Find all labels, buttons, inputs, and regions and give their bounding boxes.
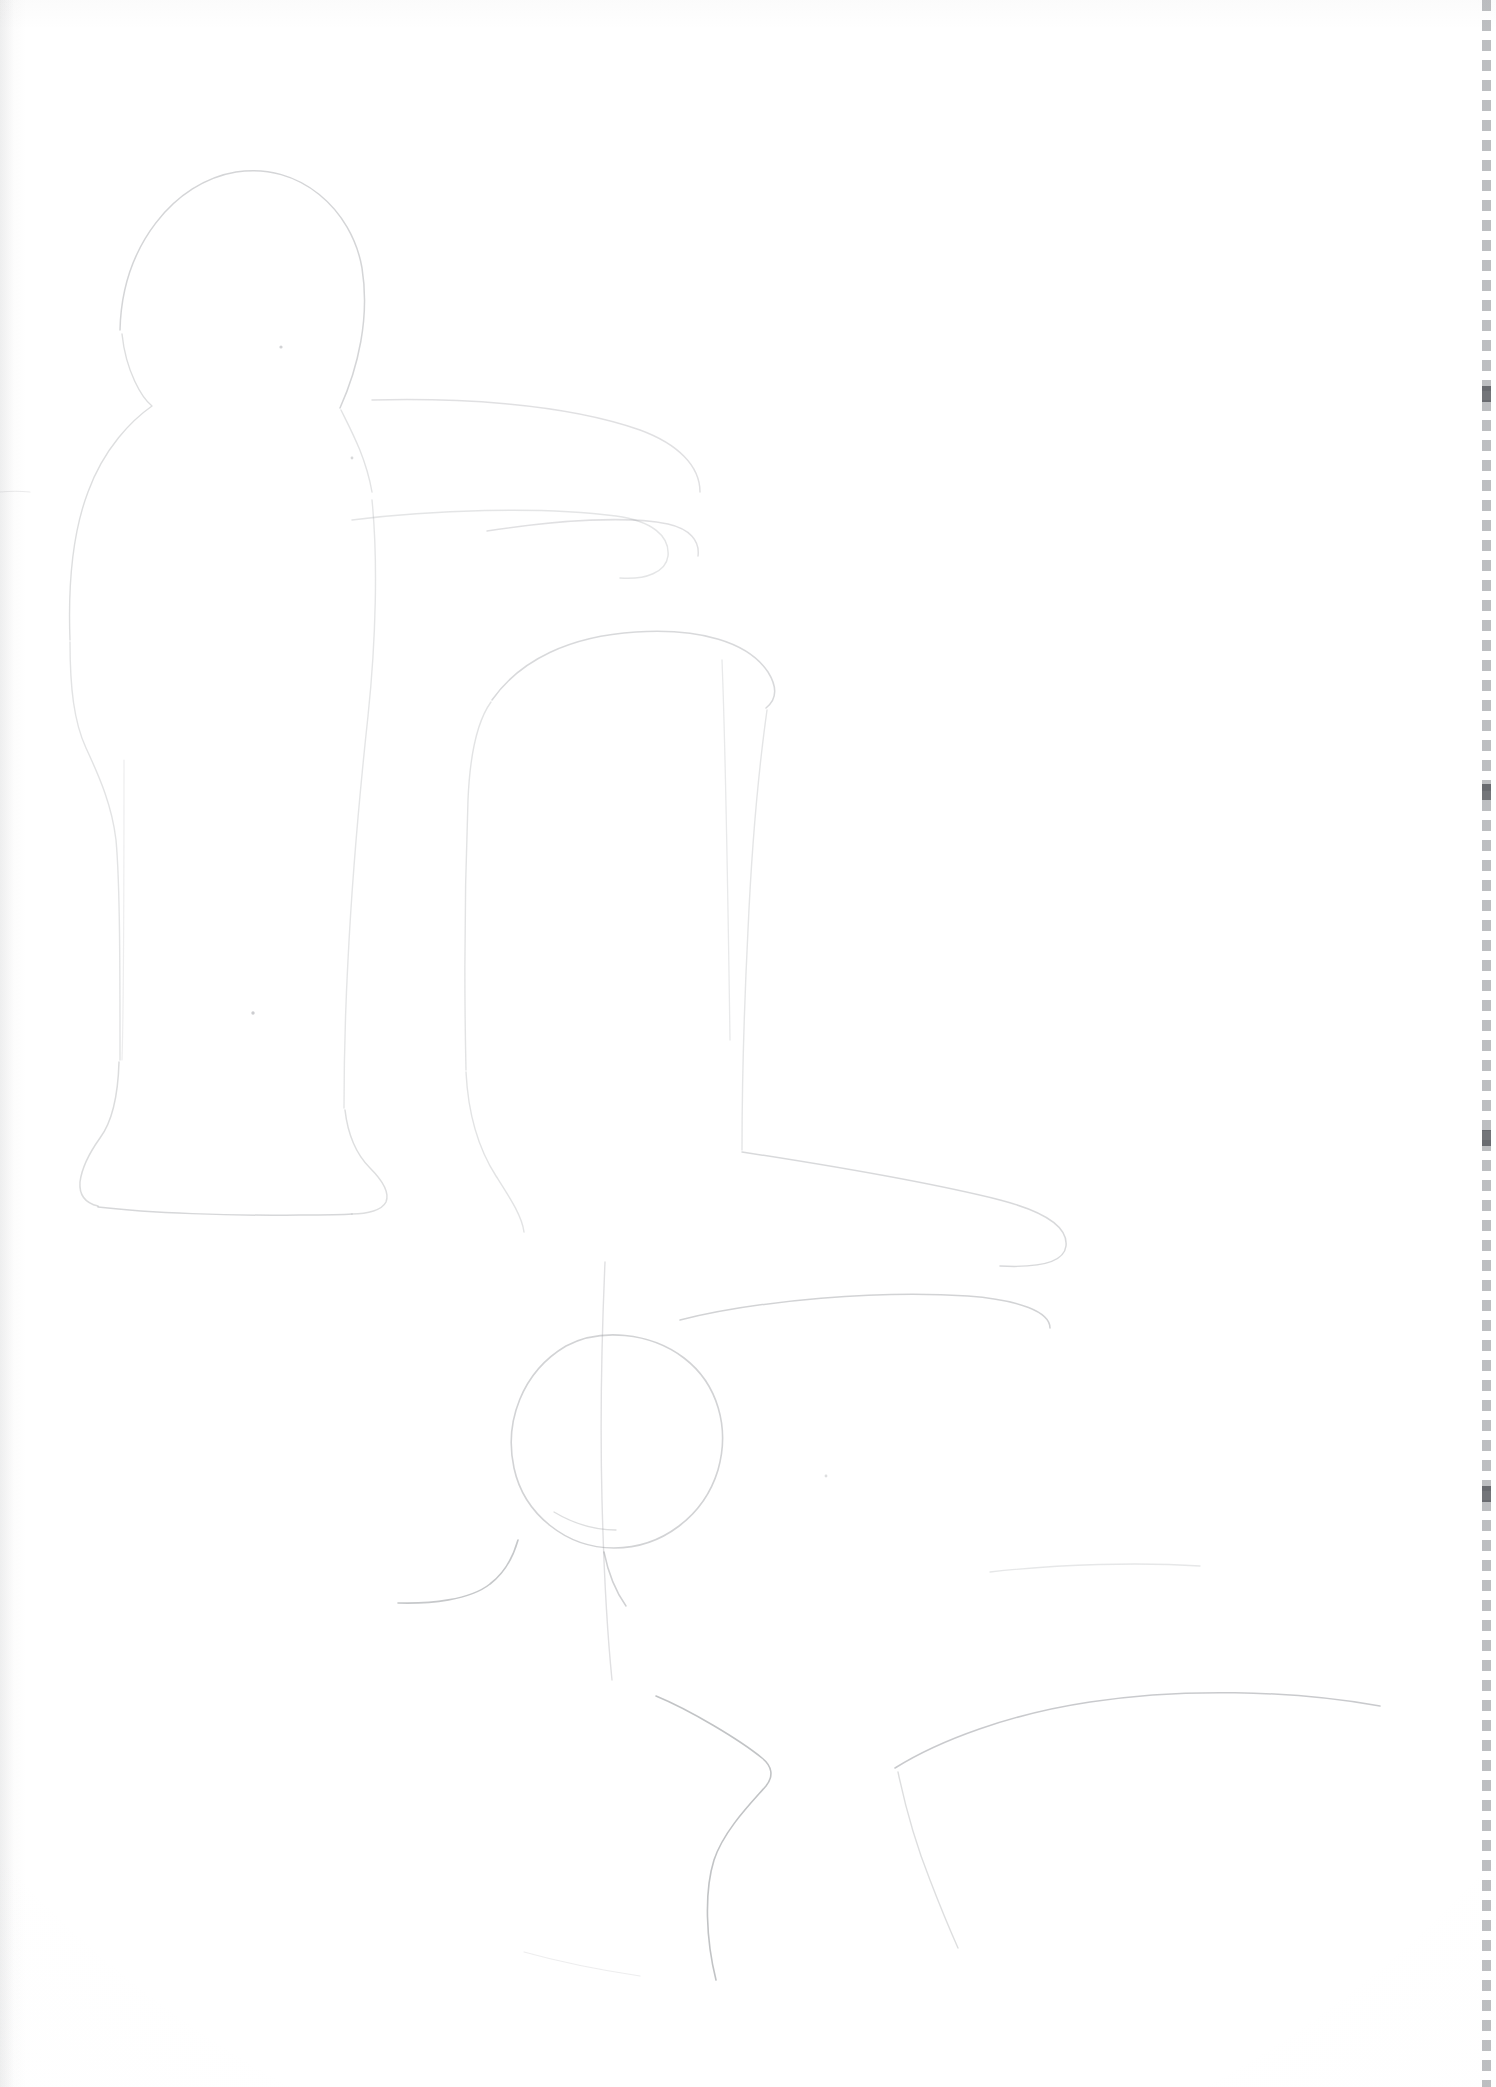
margin-tick-1 <box>1482 386 1491 402</box>
right-figure-hip-left <box>466 1072 524 1232</box>
bottom-right-curve-group <box>895 1564 1380 1948</box>
left-figure-base-right <box>345 1110 387 1214</box>
right-figure-lower-corner <box>398 1540 518 1603</box>
line-drawing-artwork <box>0 0 1496 2087</box>
bottom-circle-group <box>511 1335 722 1548</box>
margin-tick-3 <box>1482 1130 1491 1146</box>
bottom-right-long-curve <box>895 1693 1380 1768</box>
margin-tick-4 <box>1482 1486 1491 1502</box>
right-figure-leg-contour <box>601 1262 612 1680</box>
right-figure-lower-corner-stem <box>604 1552 626 1606</box>
left-figure-shoulder-left <box>70 334 152 640</box>
stray-dot-lower <box>825 1475 828 1478</box>
right-figure-inner-line <box>722 660 730 1040</box>
left-figure-base-bottom <box>98 1207 352 1215</box>
right-figure-torso-left <box>465 702 491 1070</box>
right-figure <box>352 400 1066 1980</box>
bottom-circle-inner-tick <box>554 1512 616 1530</box>
right-figure-base-sweep-lower <box>680 1294 1050 1328</box>
left-figure-base-left <box>80 1062 119 1206</box>
margin-tick-2 <box>1482 784 1491 800</box>
left-figure-body-left <box>70 642 120 1060</box>
stray-dot-upper <box>351 457 354 460</box>
bottom-right-upper-wisp <box>990 1564 1200 1572</box>
right-figure-base-sweep <box>742 1152 1066 1266</box>
left-figure-neck-right <box>341 410 372 492</box>
left-figure-head-outline <box>120 171 365 408</box>
bottom-circle-outline <box>511 1335 722 1548</box>
left-figure-inner-crease <box>122 760 124 1060</box>
right-figure-torso-top <box>492 631 775 708</box>
left-figure-body-right <box>344 500 375 1108</box>
right-figure-arm-upper <box>372 400 700 492</box>
stray-mark-mid-left <box>0 491 30 492</box>
stray-mark-bottom <box>524 1952 640 1976</box>
left-figure-pencil-dot <box>251 1011 254 1014</box>
right-figure-torso-right <box>742 710 767 1150</box>
right-figure-knee-bend <box>656 1696 771 1980</box>
stray-pencil-marks <box>0 457 827 1976</box>
left-figure <box>70 171 388 1216</box>
scanned-page: Scanned pencil line drawing Two abstract… <box>0 0 1496 2087</box>
bottom-right-descender <box>898 1772 958 1948</box>
left-figure-head-dot <box>279 345 282 348</box>
right-figure-arm-sweep <box>487 520 698 556</box>
